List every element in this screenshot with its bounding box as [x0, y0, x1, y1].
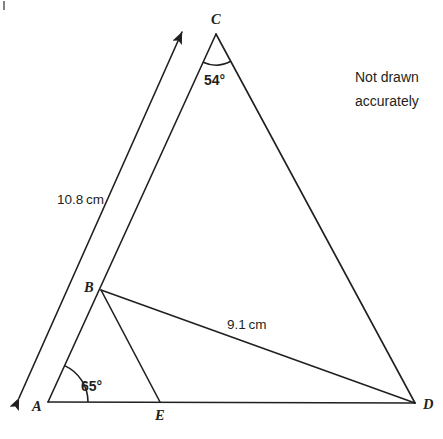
segment-bd [101, 290, 415, 403]
angle-label-a: 65° [81, 378, 102, 394]
note-line-2: accurately [355, 93, 419, 109]
segment-ac [48, 34, 216, 402]
segment-ad [48, 402, 415, 403]
geometry-diagram: A B C D E 10.8 cm 9.1 cm 54° 65° Not dra… [0, 0, 443, 439]
angle-label-c: 54° [204, 72, 225, 88]
segment-be [101, 290, 160, 402]
double-headed-ray [19, 32, 182, 398]
vertex-label-d: D [422, 396, 434, 412]
length-label-bd: 9.1 cm [227, 317, 266, 332]
vertex-label-c: C [211, 11, 221, 27]
length-label-ac: 10.8 cm [57, 192, 104, 207]
vertex-label-a: A [31, 398, 42, 414]
note-line-1: Not drawn [355, 69, 419, 85]
angle-arc-c [203, 61, 231, 65]
vertex-label-b: B [83, 279, 94, 295]
vertex-label-e: E [154, 407, 165, 423]
segment-cd [216, 34, 415, 403]
geometry-canvas: A B C D E 10.8 cm 9.1 cm 54° 65° Not dra… [0, 0, 443, 439]
